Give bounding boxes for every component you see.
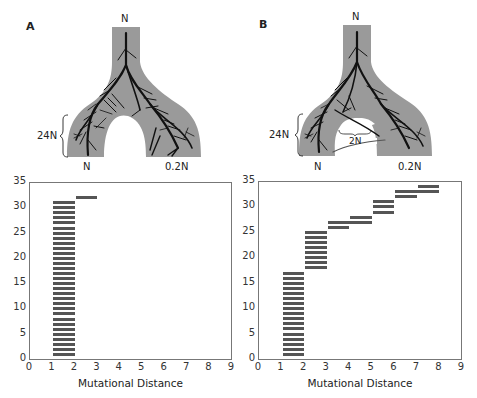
distance-segment [53,297,74,300]
distance-segment [53,312,74,315]
x-tick-label: 4 [113,361,125,372]
distance-segment [53,221,74,224]
x-tick-label: 1 [275,361,287,372]
generation-bracket [60,115,68,157]
y-tick-label: 10 [8,301,26,312]
distance-segment [283,297,305,300]
x-tick-label: 0 [23,361,35,372]
y-tick-label: 5 [8,327,26,338]
distance-segment [283,327,305,330]
distance-segment [283,287,305,290]
distance-segment [53,282,74,285]
y-tick-label: 25 [237,225,255,236]
distance-segment [395,190,439,193]
left-population-label: N [83,161,90,172]
distance-segment [373,205,395,208]
distance-segment [305,256,327,259]
distance-segment [53,211,74,214]
x-tick-label: 2 [68,361,80,372]
distance-segment [305,241,327,244]
left-population-label: N [314,161,321,172]
distance-segment [373,200,395,203]
distance-segment [283,317,305,320]
distance-segment [283,312,305,315]
distance-segment [283,272,305,275]
y-tick-label: 20 [237,250,255,261]
distance-segment [283,333,305,336]
y-tick-label: 20 [8,251,26,262]
distance-segment [283,302,305,305]
distance-segment [53,307,74,310]
distance-segment [283,307,305,310]
y-tick-label: 15 [8,276,26,287]
plot-area [29,182,232,360]
distance-segment [305,261,327,264]
distance-segment [283,322,305,325]
y-tick-label: 25 [8,226,26,237]
distance-segment [305,251,327,254]
distance-segment [305,246,327,249]
distance-segment [283,343,305,346]
distance-segment [53,343,74,346]
distance-segment [53,323,74,326]
distance-segment [53,287,74,290]
y-tick-label: 10 [237,301,255,312]
distance-segment [53,252,74,255]
distance-segment [53,333,74,336]
x-tick-label: 4 [342,361,354,372]
distance-segment [283,348,305,351]
distance-segment [53,237,74,240]
x-tick-label: 7 [180,361,192,372]
y-tick-label: 5 [237,327,255,338]
x-tick-label: 8 [203,361,215,372]
y-tick-label: 35 [8,175,26,186]
distance-segment [53,232,74,235]
x-tick-label: 1 [45,361,57,372]
top-population-label: N [352,11,359,22]
distance-segment [53,328,74,331]
right-population-label: 0.2N [165,161,188,172]
distance-segment [283,277,305,280]
distance-segment [350,216,372,219]
x-tick-label: 7 [410,361,422,372]
distance-segment [283,292,305,295]
bracket-label: 24N [37,130,57,141]
distance-segment [53,262,74,265]
distance-segment [53,257,74,260]
distance-segment [53,318,74,321]
x-axis-label: Mutational Distance [258,377,462,389]
top-population-label: N [121,13,128,24]
distance-segment [53,348,74,351]
distance-segment [53,338,74,341]
x-tick-label: 9 [455,361,467,372]
distance-segment [53,302,74,305]
x-tick-label: 9 [225,361,237,372]
distance-segment [53,272,74,275]
x-tick-label: 8 [432,361,444,372]
x-tick-label: 0 [252,361,264,372]
distance-segment [53,267,74,270]
distance-segment [53,353,74,356]
y-tick-label: 30 [237,199,255,210]
x-tick-label: 3 [90,361,102,372]
distance-segment [283,353,305,356]
distance-segment [305,266,327,269]
distance-segment [395,195,417,198]
distance-segment [76,196,97,199]
x-tick-label: 2 [297,361,309,372]
distance-segment [328,221,372,224]
distance-segment [53,201,74,204]
distance-segment [305,236,327,239]
distance-segment [53,247,74,250]
x-tick-label: 3 [320,361,332,372]
distance-segment [283,338,305,341]
x-tick-label: 6 [387,361,399,372]
distance-segment [305,231,327,234]
distance-segment [53,277,74,280]
distance-segment [373,211,395,214]
distance-segment [53,227,74,230]
y-tick-label: 35 [237,174,255,185]
distance-segment [53,216,74,219]
right-population-label: 0.2N [398,161,421,172]
distance-segment [53,292,74,295]
